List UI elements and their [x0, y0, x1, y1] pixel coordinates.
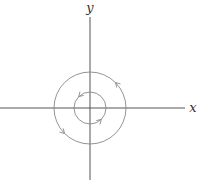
y-axis: y	[85, 0, 94, 180]
x-axis-label: x	[189, 100, 197, 115]
y-axis-label: y	[85, 0, 94, 15]
phase-portrait-figure: x y	[0, 0, 200, 182]
x-axis: x	[0, 100, 197, 115]
